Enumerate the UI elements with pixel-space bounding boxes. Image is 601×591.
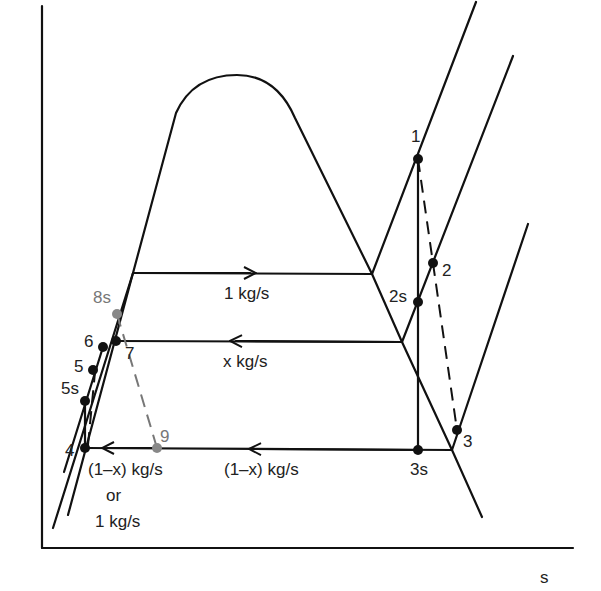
state-5 bbox=[88, 365, 98, 375]
label-9: 9 bbox=[160, 427, 169, 446]
condenser-arrow-right bbox=[255, 449, 418, 450]
label-4: 4 bbox=[65, 441, 74, 460]
label-5: 5 bbox=[74, 357, 83, 376]
label-1: 1 bbox=[411, 127, 420, 146]
label-2s: 2s bbox=[389, 287, 407, 306]
label-7: 7 bbox=[125, 344, 134, 363]
flow-label-pump-3: 1 kg/s bbox=[95, 512, 140, 531]
flow-label-pump-1: (1–x) kg/s bbox=[88, 460, 163, 479]
flow-label-middle: x kg/s bbox=[223, 352, 267, 371]
state-2s bbox=[413, 297, 423, 307]
throttle-line bbox=[117, 314, 157, 448]
label-3: 3 bbox=[463, 432, 472, 451]
state-3s bbox=[413, 445, 423, 455]
flow-label-top: 1 kg/s bbox=[224, 284, 269, 303]
state-4 bbox=[80, 443, 90, 453]
label-6: 6 bbox=[84, 332, 93, 351]
label-3s: 3s bbox=[410, 460, 428, 479]
extraction-arrow bbox=[236, 341, 402, 342]
flow-label-pump-2: or bbox=[106, 486, 121, 505]
label-2: 2 bbox=[442, 261, 451, 280]
ts-diagram: s 1 2 2s 3 3s 4 5s 5 bbox=[0, 0, 601, 591]
label-8s: 8s bbox=[93, 288, 111, 307]
state-2 bbox=[428, 258, 438, 268]
x-axis-label: s bbox=[540, 568, 549, 587]
isobar-high bbox=[372, 2, 476, 274]
state-3 bbox=[452, 425, 462, 435]
state-7 bbox=[111, 336, 121, 346]
state-6 bbox=[98, 342, 108, 352]
label-5s: 5s bbox=[61, 379, 79, 398]
flow-label-bottom: (1–x) kg/s bbox=[224, 460, 299, 479]
state-5s bbox=[80, 396, 90, 406]
state-1 bbox=[413, 154, 423, 164]
isobar-low bbox=[452, 224, 528, 450]
state-8s bbox=[112, 309, 122, 319]
